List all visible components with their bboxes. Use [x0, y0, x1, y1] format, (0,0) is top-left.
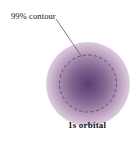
orbital-figure: 99% contour 1s orbital [0, 0, 139, 141]
leader-line [56, 19, 82, 57]
contour-label: 99% contour [11, 12, 56, 21]
contour-circle-icon [60, 55, 117, 112]
orbital-label: 1s orbital [68, 121, 106, 130]
